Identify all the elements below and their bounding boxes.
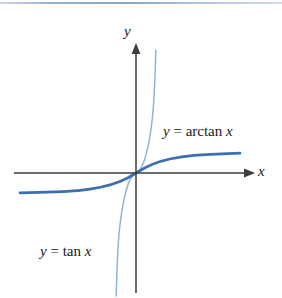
tan-label-equals: = — [50, 243, 58, 259]
tan-curve-upper-branch — [136, 50, 156, 173]
y-axis-label: y — [124, 24, 131, 39]
tan-label-y: y — [40, 243, 47, 259]
arctan-label-function: arctan — [186, 123, 223, 139]
tan-label-argument: x — [85, 243, 92, 259]
y-axis-arrowhead — [132, 43, 141, 54]
tan-curve-lower-branch — [116, 173, 136, 296]
tan-curve-label: y = tan x — [40, 244, 91, 259]
x-axis-arrowhead — [244, 169, 255, 178]
figure-arctan-tan: y = arctan x y = tan x y x — [0, 0, 282, 298]
arctan-label-argument: x — [226, 123, 233, 139]
arctan-curve-label: y = arctan x — [163, 124, 233, 139]
x-axis-label: x — [258, 164, 265, 179]
arctan-label-equals: = — [173, 123, 181, 139]
arctan-label-y: y — [163, 123, 170, 139]
tan-label-function: tan — [63, 243, 81, 259]
